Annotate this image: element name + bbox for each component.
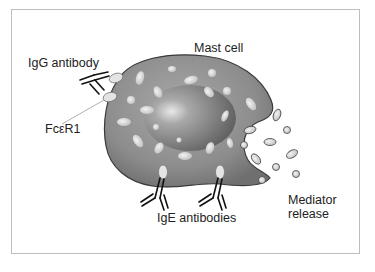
igg-antibody-label: IgG antibody [28,56,99,70]
mast-cell-diagram [0,0,375,272]
ige-antibodies-label: IgE antibodies [157,211,236,225]
mediator-release-label-line2: release [288,207,329,221]
igg-antibody [80,72,109,94]
mast-cell-label: Mast cell [194,41,243,55]
mediator-release-label-line1: Mediator [288,193,337,207]
fc-receptor-label: FcεR1 [45,122,80,136]
receptor-pointer-line [62,100,104,124]
